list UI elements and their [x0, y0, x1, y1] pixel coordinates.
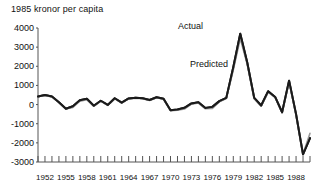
x-axis-tick-label: 1973	[183, 174, 201, 182]
y-axis-tick-label: 4000	[0, 24, 34, 33]
chart-root: 1985 kronor per capita 40003000200010000…	[0, 0, 317, 194]
x-axis-tick-label: 1964	[120, 174, 138, 182]
x-axis-tick-label: 1955	[57, 174, 75, 182]
chart-series-lines	[38, 34, 310, 155]
x-axis-tick-label: 1976	[203, 174, 221, 182]
y-axis-tick-label: -2000	[0, 139, 34, 148]
x-axis-tick-label: 1967	[141, 174, 159, 182]
x-axis-tick-label: 1958	[78, 174, 96, 182]
x-axis-tick-label: 1979	[224, 174, 242, 182]
y-axis-tick-label: -3000	[0, 158, 34, 167]
x-axis-tick-label: 1970	[162, 174, 180, 182]
annotation-predicted: Predicted	[190, 60, 228, 69]
y-axis-tick-label: 3000	[0, 43, 34, 52]
chart-canvas	[0, 0, 317, 194]
y-axis-tick-label: -1000	[0, 120, 34, 129]
y-axis-tick-label: 0	[0, 101, 34, 110]
annotation-actual: Actual	[178, 22, 203, 31]
chart-axes	[36, 28, 310, 162]
x-axis-tick-label: 1988	[287, 174, 305, 182]
x-axis-tick-label: 1952	[36, 174, 54, 182]
x-axis-tick-label: 1985	[266, 174, 284, 182]
x-axis-tick-label: 1982	[245, 174, 263, 182]
y-axis-tick-label: 2000	[0, 62, 34, 71]
x-axis-tick-label: 1961	[99, 174, 117, 182]
y-axis-tick-label: 1000	[0, 81, 34, 90]
